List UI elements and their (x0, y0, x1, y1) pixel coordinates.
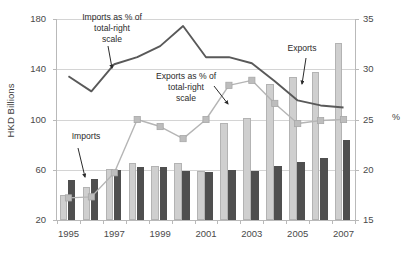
x-axis-tick-label: 1995 (48, 228, 88, 239)
y-axis-left-tick-label: 180 (16, 13, 46, 24)
y-axis-right-title: % (392, 112, 400, 122)
x-axis-tick-label: 1999 (140, 228, 180, 239)
x-axis-tick-label: 1997 (94, 228, 134, 239)
line-marker-exports-pct-2003 (249, 77, 255, 83)
imports-annotation-text: Imports (56, 131, 116, 142)
x-axis-tick-label: 2003 (232, 228, 272, 239)
line-marker-exports-pct-2006 (318, 117, 324, 123)
line-marker-exports-pct-1999 (157, 123, 163, 129)
axis-spine-right (355, 19, 356, 221)
x-axis-tick-label: 2005 (278, 228, 318, 239)
axis-spine-bottom (56, 220, 356, 221)
imports-pct-annotation-line1: Imports as % of (58, 12, 166, 23)
chart-container: HKD Billions % 2060100140180 1520253035 … (0, 0, 407, 259)
exports-annotation: Exports (276, 43, 328, 54)
y-axis-right-tick-label: 35 (363, 13, 389, 24)
exports-pct-annotation: Exports as % of total-right scale (134, 71, 238, 104)
y-axis-left-tick-label: 60 (16, 164, 46, 175)
exports-pct-annotation-line3: scale (134, 93, 238, 104)
y-axis-right-tick-label: 15 (363, 214, 389, 225)
line-marker-exports-pct-2005 (295, 120, 301, 126)
y-axis-right-tick-label: 30 (363, 63, 389, 74)
imports-pct-annotation-line3: scale (58, 34, 166, 45)
y-axis-left-title: HKD Billions (5, 84, 16, 138)
y-axis-left-tick-label: 20 (16, 214, 46, 225)
exports-annotation-text: Exports (276, 43, 328, 54)
exports-pct-annotation-line1: Exports as % of (134, 71, 238, 82)
imports-annotation: Imports (56, 131, 116, 142)
x-axis-tick-label: 2001 (186, 228, 226, 239)
imports-pct-annotation: Imports as % of total-right scale (58, 12, 166, 45)
line-marker-exports-pct-2004 (272, 100, 278, 106)
line-marker-exports-pct-2001 (203, 116, 209, 122)
x-axis-tick-label: 2007 (324, 228, 364, 239)
y-axis-right-tick-label: 20 (363, 164, 389, 175)
line-marker-exports-pct-2000 (180, 135, 186, 141)
exports-pct-annotation-line2: total-right (134, 82, 238, 93)
y-axis-left-tick-label: 100 (16, 114, 46, 125)
line-marker-exports-pct-1998 (134, 116, 140, 122)
line-marker-exports-pct-1995 (65, 195, 71, 201)
imports-pct-annotation-line2: total-right (58, 23, 166, 34)
y-axis-left-tick-label: 140 (16, 63, 46, 74)
y-axis-right-tick-label: 25 (363, 114, 389, 125)
line-marker-exports-pct-1996 (88, 194, 94, 200)
line-marker-exports-pct-1997 (111, 170, 117, 176)
line-marker-exports-pct-2007 (340, 116, 346, 122)
axis-spine-left (56, 19, 57, 221)
